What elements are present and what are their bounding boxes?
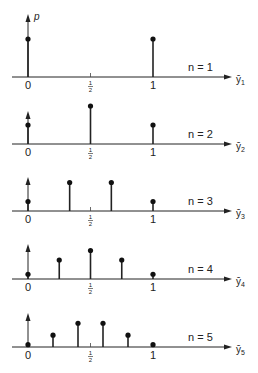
stem-point [25,36,30,41]
stem-point [25,342,30,347]
x-axis-arrowhead-icon [224,345,232,350]
stem-point [25,272,30,277]
x-tick-label: 1 [150,213,156,225]
x-tick-label: 0 [25,79,31,91]
x-tick-label-numerator: 1 [89,80,93,86]
x-tick-label: 1 [150,79,156,91]
panel-n-label: n = 2 [188,128,213,140]
y-axis-label: p [33,11,40,22]
x-tick-label-numerator: 1 [89,282,93,288]
x-tick-label: 0 [25,146,31,158]
stem-point [109,180,114,185]
y-axis-arrowhead-icon [26,177,31,185]
x-tick-label-denominator: 2 [89,154,93,160]
x-tick-label-numerator: 1 [89,214,93,220]
y-axis-arrowhead-icon [26,111,31,119]
panel-n-label: n = 1 [188,61,213,73]
x-tick-label-denominator: 2 [89,357,93,363]
panel-n-label: n = 5 [188,331,213,343]
stem-point [125,333,130,338]
x-axis-label: ȳ1 [236,74,245,86]
x-tick-label: 1 [150,281,156,293]
y-axis-arrowhead-icon [26,313,31,321]
x-tick-label-numerator: 1 [89,147,93,153]
stem-point [150,199,155,204]
y-axis-arrowhead-icon [26,14,31,22]
stem-point [25,122,30,127]
x-tick-label: 0 [25,213,31,225]
x-tick-label: 1 [150,349,156,361]
stem-point [150,122,155,127]
binomial-stem-diagram: p0121n = 1ȳ10121n = 2ȳ20121n = 3ȳ30121n … [0,0,258,373]
x-tick-label-denominator: 2 [89,289,93,295]
y-axis-arrowhead-icon [26,244,31,252]
x-tick-label-denominator: 2 [89,87,93,93]
x-tick-label: 0 [25,349,31,361]
x-tick-label-numerator: 1 [89,350,93,356]
x-axis-arrowhead-icon [224,277,232,282]
stem-point [150,342,155,347]
stem-point [88,248,93,253]
x-tick-label: 0 [25,281,31,293]
x-axis-label: ȳ4 [236,276,245,288]
stem-point [75,321,80,326]
x-tick-label: 1 [150,146,156,158]
stem-point [150,272,155,277]
stem-point [119,257,124,262]
x-axis-label: ȳ3 [236,208,245,220]
panel-n-label: n = 3 [188,195,213,207]
stem-point [50,333,55,338]
stem-point [25,199,30,204]
x-axis-arrowhead-icon [224,75,232,80]
stem-point [100,321,105,326]
x-tick-label-denominator: 2 [89,221,93,227]
x-axis-label: ȳ5 [236,344,245,356]
panel-n-label: n = 4 [188,263,213,275]
stem-point [88,103,93,108]
stem-point [67,180,72,185]
x-axis-arrowhead-icon [224,209,232,214]
stem-point [57,257,62,262]
stem-point [150,36,155,41]
x-axis-label: ȳ2 [236,141,245,153]
x-axis-arrowhead-icon [224,142,232,147]
